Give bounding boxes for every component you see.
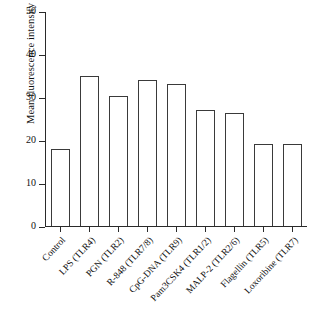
x-tick-slot	[104, 227, 133, 232]
x-axis-tick	[292, 227, 293, 232]
y-axis-tick: 40	[39, 55, 45, 56]
x-tick-slot	[220, 227, 249, 232]
x-tick-slot	[249, 227, 278, 232]
bar-slot	[75, 12, 104, 226]
bar[interactable]	[80, 76, 99, 226]
bar[interactable]	[51, 149, 70, 226]
x-axis-tick	[263, 227, 264, 232]
y-axis-tick-label: 40	[26, 48, 36, 59]
bar-slot	[220, 12, 249, 226]
bar[interactable]	[109, 96, 128, 226]
y-axis-tick: 10	[39, 184, 45, 185]
plot-area: 01020304050	[45, 12, 307, 227]
bar-slot	[249, 12, 278, 226]
bar-slot	[162, 12, 191, 226]
bar-slot	[191, 12, 220, 226]
bar-slot	[46, 12, 75, 226]
x-axis-tick	[234, 227, 235, 232]
y-axis-tick-label: 20	[26, 134, 36, 145]
x-tick-slot	[75, 227, 104, 232]
bar[interactable]	[283, 144, 302, 226]
y-axis-tick: 50	[39, 12, 45, 13]
y-axis-tick: 30	[39, 98, 45, 99]
x-tick-slot	[133, 227, 162, 232]
y-axis-tick-label: 30	[26, 91, 36, 102]
y-axis-tick-label: 10	[26, 177, 36, 188]
bar[interactable]	[225, 113, 244, 226]
bar[interactable]	[138, 80, 157, 226]
x-axis-tick	[60, 227, 61, 232]
bar[interactable]	[167, 84, 186, 226]
x-tick-slot	[162, 227, 191, 232]
x-tick-slot	[191, 227, 220, 232]
y-axis-tick-label: 0	[31, 220, 36, 231]
y-axis-tick: 20	[39, 141, 45, 142]
bar-slot	[133, 12, 162, 226]
bar-group	[46, 12, 307, 226]
bar-slot	[278, 12, 307, 226]
y-axis-tick: 0	[39, 227, 45, 228]
bar-slot	[104, 12, 133, 226]
x-axis-labels: ControlLPS (TLR4)PGN (TLR2)R-848 (TLR7/8…	[46, 233, 307, 310]
x-axis-tick	[118, 227, 119, 232]
y-axis-tick-label: 50	[26, 5, 36, 16]
x-axis-ticks	[46, 227, 307, 232]
bar[interactable]	[196, 110, 215, 226]
x-tick-slot	[278, 227, 307, 232]
bar[interactable]	[254, 144, 273, 226]
x-axis-tick	[89, 227, 90, 232]
x-label-slot: Loxoribine (TLR7)	[278, 233, 307, 310]
x-tick-slot	[46, 227, 75, 232]
x-axis-tick	[147, 227, 148, 232]
x-axis-tick	[205, 227, 206, 232]
x-axis-tick	[176, 227, 177, 232]
bar-chart-figure: Mean fluorescence intensity 01020304050 …	[0, 0, 317, 310]
x-axis-tick-label: Control	[41, 235, 68, 263]
